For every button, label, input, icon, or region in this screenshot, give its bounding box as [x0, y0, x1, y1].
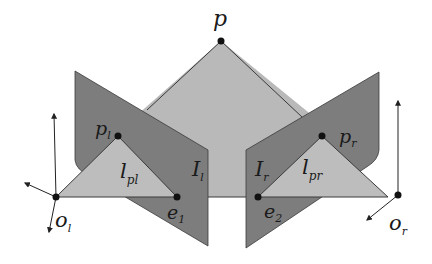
point-o-l	[53, 194, 60, 201]
label-o-r: or	[389, 211, 408, 238]
point-p-l	[115, 133, 122, 140]
point-p-r	[319, 133, 326, 140]
point-e-1	[174, 194, 181, 201]
left-axis-up-icon	[54, 114, 56, 197]
point-o-r	[395, 192, 402, 199]
point-e-2	[255, 194, 262, 201]
left-axis-left-icon	[25, 183, 56, 197]
point-p	[218, 38, 225, 45]
label-p: p	[213, 6, 227, 31]
epipolar-geometry-diagram: p pl pr lpl lpr Il Ir e1 e2 ol or	[0, 0, 432, 264]
label-o-l: ol	[55, 208, 72, 235]
